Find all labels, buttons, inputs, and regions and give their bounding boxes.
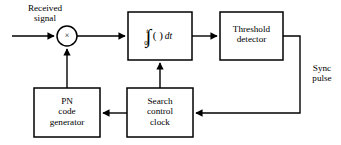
integral-upper-limit: t: [146, 27, 148, 35]
sync-pulse-label: Sync pulse: [303, 63, 341, 84]
received-signal-label: Received signal: [10, 3, 80, 24]
threshold-to-search-clock-line: [196, 36, 300, 113]
pn-code-generator-label: PN code generator: [34, 96, 100, 127]
differential-dt: dt: [165, 31, 172, 41]
search-control-clock-label: Search control clock: [127, 96, 193, 127]
integrator-expression: ∫t0( )dt: [128, 25, 192, 45]
multiplier-symbol: ×: [57, 31, 77, 40]
threshold-detector-label: Threshold detector: [220, 24, 283, 45]
block-diagram: × ∫t0( )dt Threshold detector PN code ge…: [0, 0, 341, 145]
integral-lower-limit: 0: [144, 39, 148, 47]
integrand-parentheses: ( ): [153, 29, 163, 41]
